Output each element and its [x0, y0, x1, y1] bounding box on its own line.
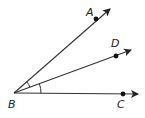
label-c: C	[117, 98, 125, 111]
point-d	[114, 54, 119, 59]
point-c	[121, 92, 126, 97]
angle-diagram: ADCB	[0, 0, 145, 118]
ray-bc	[14, 93, 138, 94]
point-a	[94, 17, 99, 22]
label-d: D	[111, 37, 119, 50]
label-b: B	[8, 98, 16, 111]
ray-ba	[14, 9, 110, 93]
ray-bd	[14, 50, 131, 93]
label-a: A	[85, 6, 94, 19]
angle-mark-ba-bd	[27, 82, 30, 88]
angle-mark-bd-bc	[39, 84, 41, 93]
